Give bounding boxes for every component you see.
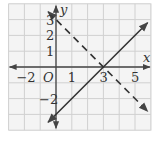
y-tick-label: 3 [46,13,54,28]
x-tick-label: −2 [16,70,35,85]
y-tick-label: 2 [46,28,54,43]
x-axis-label: x [143,50,151,65]
origin-label: O [43,70,54,85]
y-axis-label: y [59,2,68,17]
x-tick-label: 1 [68,70,76,85]
y-tick-label: 1 [46,44,54,59]
y-tick-label: −2 [39,92,58,107]
x-tick-label: 5 [131,70,139,85]
x-tick-label: 3 [99,70,107,85]
coordinate-graph: −2135321−2Oxy [0,0,158,141]
